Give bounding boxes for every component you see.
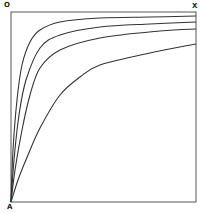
curve-3 (11, 29, 196, 202)
label-x: X (192, 3, 197, 10)
saturation-curves-diagram (0, 0, 200, 213)
frame (11, 12, 196, 202)
curve-4 (11, 44, 196, 202)
curves-group (11, 16, 196, 202)
curve-1 (11, 16, 196, 202)
label-o: O (4, 2, 10, 9)
label-a: A (7, 204, 12, 211)
